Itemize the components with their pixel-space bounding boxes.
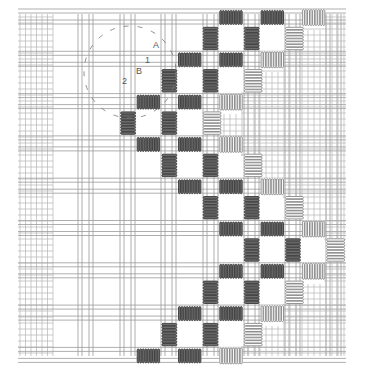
wrap-loop	[315, 263, 317, 279]
wrap-loop	[285, 250, 300, 252]
wrap-loop	[162, 129, 177, 131]
stitch-block-light-horizontal	[220, 347, 243, 364]
wrap-loop	[162, 166, 177, 168]
wrap-loop	[238, 180, 240, 194]
wrap-loop	[269, 11, 271, 25]
wrap-loop	[244, 259, 259, 261]
wrap-loop	[194, 95, 196, 109]
wrap-loop	[227, 222, 229, 236]
wrap-loop	[203, 341, 218, 343]
wrap-loop	[230, 136, 232, 152]
wrap-loop	[155, 349, 157, 363]
wrap-loop	[233, 307, 235, 321]
wrap-loop	[222, 222, 224, 236]
wrap-loop	[162, 341, 177, 343]
wrap-loop	[199, 137, 201, 151]
wrap-loop	[285, 247, 300, 249]
stitch-block-light-horizontal	[261, 178, 284, 195]
wrap-loop	[199, 53, 201, 67]
stitch-block-light-horizontal	[302, 221, 325, 238]
wrap-loop	[285, 199, 303, 201]
wrap-loop	[235, 94, 237, 110]
wrap-loop	[279, 222, 281, 236]
wrap-loop	[145, 137, 147, 151]
wrap-loop	[264, 264, 266, 278]
wrap-loop	[244, 45, 259, 47]
wrap-loop	[235, 348, 237, 364]
wrap-loop	[274, 11, 276, 25]
wrap-loop	[162, 112, 177, 114]
wrap-loop	[222, 94, 224, 110]
stitch-block-light-vertical	[244, 154, 263, 177]
stitch-block-dark-vertical	[244, 281, 260, 304]
stitch-block-dark-vertical	[161, 323, 177, 346]
wrap-loop	[142, 349, 144, 363]
wrap-loop	[244, 33, 259, 35]
wrap-loop	[244, 81, 262, 83]
wrap-loop	[302, 10, 304, 26]
wrap-loop	[285, 208, 303, 210]
wrap-loop	[203, 214, 218, 216]
wrap-loop	[282, 52, 284, 68]
wrap-loop	[121, 132, 136, 134]
wrap-loop	[225, 136, 227, 152]
stitch-block-dark-vertical	[203, 154, 219, 177]
wrap-loop	[318, 263, 320, 279]
wrap-loop	[285, 293, 303, 295]
wrap-loop	[279, 179, 281, 195]
wrap-loop	[305, 263, 307, 279]
wrap-loop	[220, 94, 222, 110]
wrap-loop	[266, 179, 268, 195]
wrap-loop	[233, 264, 235, 278]
wrap-loop	[244, 47, 259, 49]
stitch-block-dark-vertical	[161, 112, 177, 135]
wrap-loop	[137, 137, 139, 151]
wrap-loop	[203, 70, 218, 72]
wrap-loop	[261, 52, 263, 68]
wrap-loop	[244, 242, 259, 244]
wrap-loop	[305, 10, 307, 26]
wrap-loop	[318, 221, 320, 237]
wrap-loop	[261, 306, 263, 322]
wrap-loop	[220, 136, 222, 152]
wrap-loop	[313, 10, 315, 26]
wrap-loop	[142, 95, 144, 109]
wrap-loop	[194, 137, 196, 151]
wrap-loop	[261, 11, 263, 25]
wrap-loop	[244, 293, 259, 295]
wrap-loop	[285, 253, 300, 255]
wrap-loop	[233, 180, 235, 194]
wrap-loop	[244, 87, 262, 89]
wrap-loop	[137, 349, 139, 363]
wrap-loop	[276, 179, 278, 195]
wrap-loop	[203, 287, 218, 289]
wrap-loop	[203, 199, 218, 201]
wrap-loop	[162, 126, 177, 128]
wrap-loop	[264, 306, 266, 322]
wrap-loop	[189, 307, 191, 321]
wrap-loop	[285, 45, 303, 47]
wrap-loop	[186, 95, 188, 109]
wrap-loop	[162, 81, 177, 83]
wrap-loop	[235, 264, 237, 278]
stitch-block-dark-vertical	[244, 27, 260, 50]
wrap-loop	[276, 52, 278, 68]
wrap-loop	[261, 264, 263, 278]
wrap-loop	[179, 95, 181, 109]
wrap-loop	[196, 307, 198, 321]
wrap-loop	[244, 344, 262, 346]
wrap-loop	[235, 53, 237, 67]
wrap-loop	[233, 136, 235, 152]
stitch-block-light-vertical	[203, 112, 222, 135]
wrap-loop	[282, 222, 284, 236]
wrap-loop	[244, 160, 262, 162]
wrap-loop	[158, 349, 160, 363]
wrap-loop	[162, 329, 177, 331]
wrap-loop	[230, 11, 232, 25]
wrap-loop	[320, 263, 322, 279]
wrap-loop	[196, 53, 198, 67]
wrap-loop	[282, 264, 284, 278]
wrap-loop	[285, 211, 303, 213]
label-1: 1	[145, 55, 150, 65]
wrap-loop	[225, 307, 227, 321]
